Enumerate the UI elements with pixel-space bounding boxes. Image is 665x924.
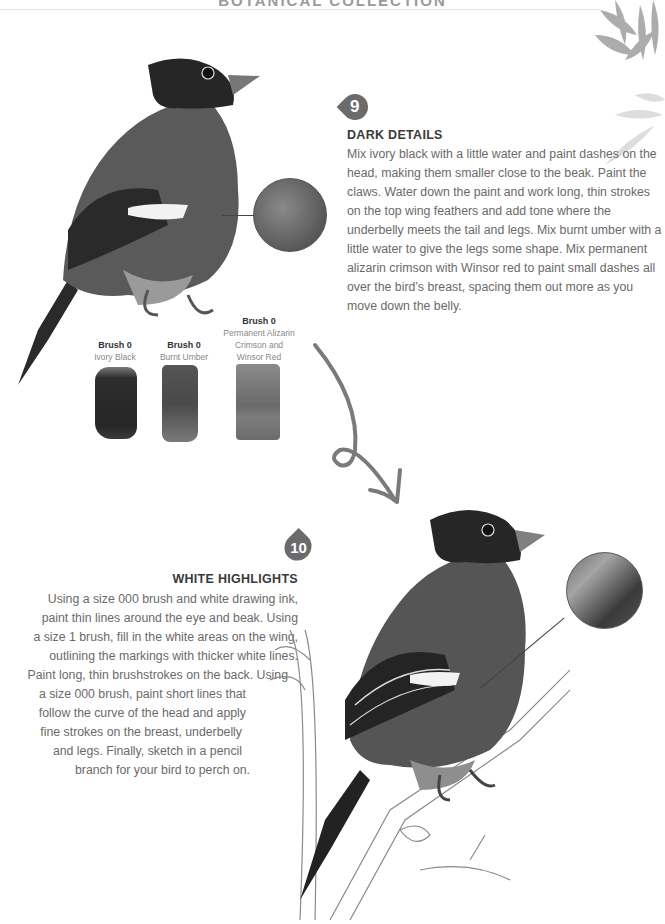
step-9-instructions: Mix ivory black with a little water and … [347,145,662,316]
brush-label-ivory-black: Brush 0Ivory Black [84,339,146,363]
step-9-heading: DARK DETAILS [347,128,443,142]
paint-swatch-alizarin-crimson [236,364,280,440]
step-9-badge: 9 [337,89,374,126]
breast-texture-detail-circle [253,178,327,252]
bullfinch-step10-illustration [270,490,570,920]
brush-label-burnt-umber: Brush 0Burnt Umber [152,339,216,363]
step-10-instructions: Using a size 000 brush and white drawing… [0,590,300,780]
curly-arrow-icon [300,340,440,510]
paint-swatch-ivory-black [95,367,137,439]
paint-swatch-burnt-umber [162,365,198,442]
back-feather-detail-circle [566,552,643,629]
detail-leader-line-1 [222,215,254,216]
brush-label-alizarin-crimson: Brush 0Permanent Alizarin Crimson and Wi… [222,315,296,363]
header-divider [0,9,600,10]
step-10-heading: WHITE HIGHLIGHTS [0,572,298,586]
